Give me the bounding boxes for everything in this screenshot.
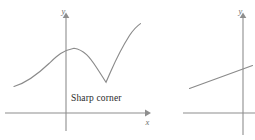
- left-curve-with-sharp-corner: [14, 24, 141, 87]
- left-x-axis-label: x: [145, 117, 150, 127]
- left-y-axis-label: y: [61, 6, 66, 16]
- right-y-axis-label: y: [238, 6, 243, 16]
- figure-root: y x y Sharp corner: [0, 0, 255, 140]
- sharp-corner-annotation: Sharp corner: [69, 93, 124, 104]
- left-panel: y x: [5, 6, 151, 132]
- left-x-axis-arrowhead: [145, 110, 151, 117]
- figure-canvas: y x y: [0, 0, 255, 140]
- right-panel: y: [183, 6, 255, 136]
